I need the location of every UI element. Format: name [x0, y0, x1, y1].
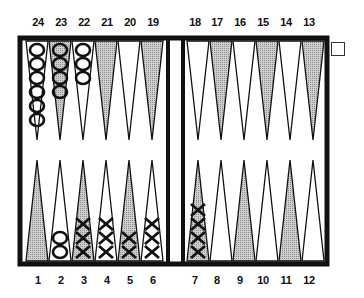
point-label-7: 7: [184, 274, 206, 286]
point-label-5: 5: [119, 274, 141, 286]
point-label-6: 6: [142, 274, 164, 286]
point-label-11: 11: [275, 274, 297, 286]
point-label-9: 9: [229, 274, 251, 286]
point-label-2: 2: [50, 274, 72, 286]
point-label-4: 4: [96, 274, 118, 286]
point-label-8: 8: [206, 274, 228, 286]
point-label-10: 10: [252, 274, 274, 286]
backgammon-board: [0, 0, 364, 298]
option-checkbox[interactable]: [331, 42, 345, 56]
bar-left-edge: [166, 38, 170, 264]
bar-right-edge: [181, 38, 185, 264]
point-label-1: 1: [27, 274, 49, 286]
point-label-3: 3: [73, 274, 95, 286]
point-label-12: 12: [298, 274, 320, 286]
